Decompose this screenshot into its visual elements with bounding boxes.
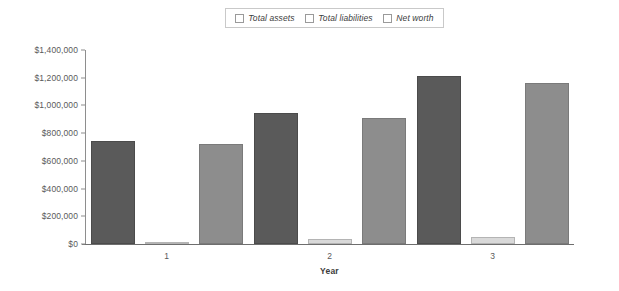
bar-total-liabilities — [471, 237, 515, 244]
y-axis-tick-label: $200,000 — [42, 211, 85, 221]
bar-total-assets — [417, 76, 461, 244]
bar-group: 2 — [248, 50, 411, 244]
bar-net-worth — [362, 118, 406, 244]
legend-item-net-worth: Net worth — [383, 13, 433, 23]
legend-swatch-total-liabilities — [305, 14, 314, 23]
x-axis-line — [82, 244, 574, 245]
chart-legend: Total assets Total liabilities Net worth — [225, 8, 444, 28]
bar-groups: 123 — [85, 50, 574, 244]
legend-label-total-assets: Total assets — [248, 13, 294, 23]
y-axis-tick-label: $400,000 — [42, 184, 85, 194]
bar-total-liabilities — [145, 242, 189, 244]
legend-item-total-liabilities: Total liabilities — [305, 13, 372, 23]
legend-item-total-assets: Total assets — [235, 13, 294, 23]
bar-total-assets — [91, 141, 135, 244]
bar-total-liabilities — [308, 239, 352, 244]
y-axis-tick-label: $1,000,000 — [34, 100, 85, 110]
x-axis-title: Year — [85, 266, 574, 276]
x-axis-tick-label: 2 — [248, 251, 411, 261]
legend-swatch-total-assets — [235, 14, 244, 23]
bar-net-worth — [199, 144, 243, 244]
x-axis-tick-label: 1 — [85, 251, 248, 261]
legend-swatch-net-worth — [383, 14, 392, 23]
y-axis-tick-label: $1,200,000 — [34, 73, 85, 83]
bar-chart: Total assets Total liabilities Net worth… — [0, 0, 619, 291]
bar-group: 1 — [85, 50, 248, 244]
plot-area: $1,400,000$1,200,000$1,000,000$800,000$6… — [85, 50, 574, 244]
legend-label-net-worth: Net worth — [396, 13, 433, 23]
y-axis-tick-label: $600,000 — [42, 156, 85, 166]
y-axis-tick-label: $1,400,000 — [34, 45, 85, 55]
bar-group: 3 — [411, 50, 574, 244]
bar-total-assets — [254, 113, 298, 244]
bar-net-worth — [525, 83, 569, 244]
y-axis-tick-label: $800,000 — [42, 128, 85, 138]
legend-label-total-liabilities: Total liabilities — [318, 13, 372, 23]
x-axis-tick-label: 3 — [411, 251, 574, 261]
